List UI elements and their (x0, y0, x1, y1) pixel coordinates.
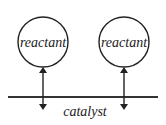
reactant-label: reactant (20, 35, 67, 50)
reactant-node-2: reactant (99, 17, 149, 67)
reactant-node-1: reactant (18, 17, 68, 67)
reactant-label: reactant (101, 35, 148, 50)
catalyst-diagram: reactant reactant catalyst (0, 0, 166, 125)
catalyst-label: catalyst (63, 104, 108, 119)
